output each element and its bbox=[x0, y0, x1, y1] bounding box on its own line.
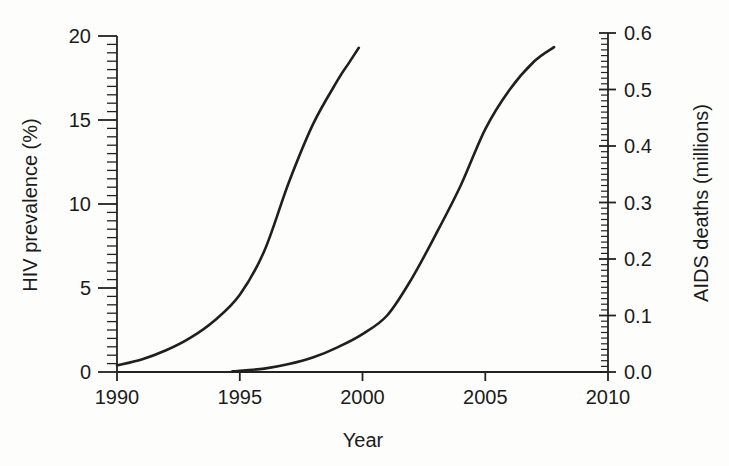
chart-canvas: 05101520 0.00.10.20.30.40.50.6 199019952… bbox=[0, 0, 729, 466]
x-axis-tick-label: 2010 bbox=[586, 386, 631, 408]
left-y-axis: 05101520 bbox=[69, 25, 117, 383]
x-axis: 19901995200020052010 bbox=[95, 372, 631, 408]
x-axis-tick-label: 1995 bbox=[218, 386, 263, 408]
right-axis-tick-label: 0.4 bbox=[624, 135, 652, 157]
right-axis-title: AIDS deaths (millions) bbox=[690, 104, 713, 302]
right-axis-tick-label: 0.2 bbox=[624, 248, 652, 270]
right-axis-tick-label: 0.5 bbox=[624, 79, 652, 101]
x-axis-title: Year bbox=[343, 429, 383, 452]
right-axis-tick-label: 0.6 bbox=[624, 22, 652, 44]
left-axis-tick-label: 0 bbox=[80, 361, 91, 383]
right-axis-tick-label: 0.3 bbox=[624, 192, 652, 214]
curve-hiv-prevalence bbox=[117, 48, 359, 366]
left-axis-tick-label: 10 bbox=[69, 193, 91, 215]
left-axis-tick-label: 5 bbox=[80, 277, 91, 299]
x-axis-tick-label: 2000 bbox=[340, 386, 385, 408]
left-axis-tick-label: 15 bbox=[69, 109, 91, 131]
chart-figure: 05101520 0.00.10.20.30.40.50.6 199019952… bbox=[0, 0, 729, 466]
right-axis-tick-label: 0.0 bbox=[624, 361, 652, 383]
left-axis-title: HIV prevalence (%) bbox=[19, 118, 42, 291]
left-axis-tick-label: 20 bbox=[69, 25, 91, 47]
right-y-axis: 0.00.10.20.30.40.50.6 bbox=[599, 22, 652, 383]
right-axis-tick-label: 0.1 bbox=[624, 305, 652, 327]
data-curves bbox=[117, 47, 554, 371]
x-axis-tick-label: 1990 bbox=[95, 386, 140, 408]
x-axis-tick-label: 2005 bbox=[463, 386, 508, 408]
